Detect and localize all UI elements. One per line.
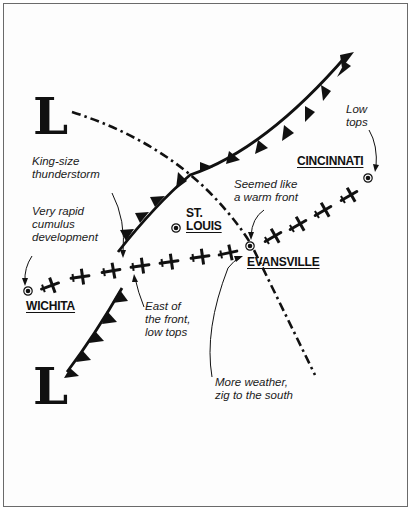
- city-marker-st-louis: [172, 224, 180, 232]
- weather-diagram: [0, 0, 413, 510]
- city-marker-cincinnati: [364, 174, 372, 182]
- note-more-weather: More weather, zig to the south: [215, 376, 293, 402]
- city-marker-evansville: [246, 242, 254, 250]
- note-king-size-thunderstorm: King-size thunderstorm: [32, 155, 100, 181]
- note-rapid-cumulus: Very rapid cumulus development: [32, 205, 98, 244]
- city-marker-wichita: [24, 287, 32, 295]
- city-label-evansville: EVANSVILLE: [247, 256, 319, 269]
- note-low-tops: Low tops: [346, 103, 368, 129]
- note-warm-front: Seemed like a warm front: [234, 178, 298, 204]
- low-pressure-upper: L: [33, 92, 68, 142]
- city-label-st: ST.: [186, 206, 203, 220]
- note-east-of-front: East of the front, low tops: [145, 300, 190, 339]
- trough-line: [72, 112, 315, 375]
- city-label-louis: LOUIS: [186, 219, 222, 233]
- low-pressure-lower: L: [33, 362, 68, 412]
- city-label-st-louis: ST.LOUIS: [186, 207, 222, 233]
- city-label-cincinnati: CINCINNATI: [297, 155, 363, 168]
- city-label-wichita: WICHITA: [26, 300, 75, 313]
